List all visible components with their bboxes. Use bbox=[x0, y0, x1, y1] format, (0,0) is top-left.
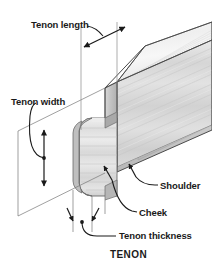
label-tenon-width: Tenon width bbox=[11, 97, 65, 107]
dimension-tenon-thickness bbox=[67, 208, 116, 236]
tenon-thickness-leader bbox=[82, 222, 116, 236]
leader-tenon-length bbox=[87, 26, 103, 36]
tenon-diagram-figure: Tenon length Tenon width Shoulder Cheek … bbox=[0, 0, 212, 272]
label-tenon-thickness: Tenon thickness bbox=[119, 231, 192, 241]
tenon-width-leader bbox=[30, 103, 44, 158]
wood-block bbox=[105, 22, 212, 173]
dimension-tenon-width bbox=[30, 103, 46, 186]
label-shoulder: Shoulder bbox=[160, 181, 200, 191]
label-cheek: Cheek bbox=[139, 208, 167, 218]
tenon-length-arrow bbox=[84, 27, 125, 47]
figure-caption: TENON bbox=[110, 250, 147, 260]
leader-shoulder bbox=[129, 164, 158, 185]
label-tenon-length: Tenon length bbox=[31, 20, 89, 30]
